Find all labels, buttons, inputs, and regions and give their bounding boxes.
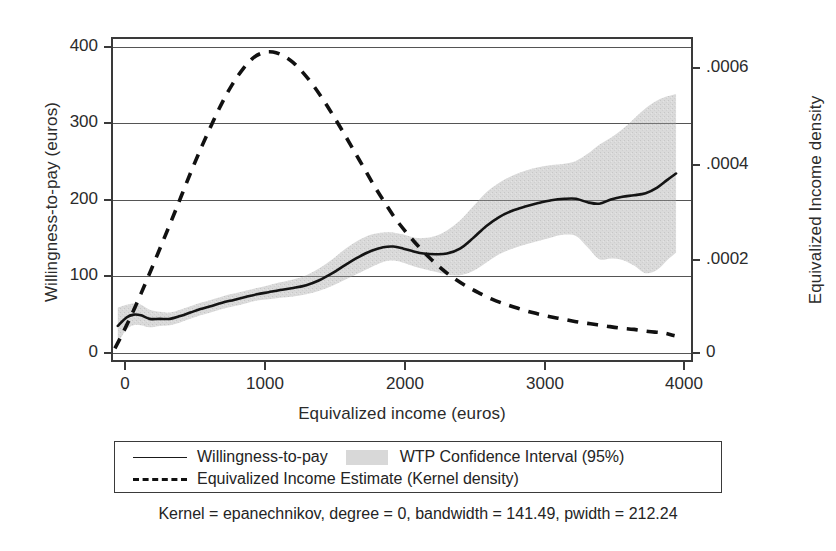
axis-ticks-right [692,68,700,353]
ytick-right-0: 0 [706,342,786,362]
chart-caption: Kernel = epanechnikov, degree = 0, bandw… [0,505,836,523]
xtick-0: 0 [85,374,165,394]
legend-solid-line-icon [133,457,187,458]
legend-label-ci: WTP Confidence Interval (95%) [400,448,625,466]
legend-label-wtp: Willingness-to-pay [197,448,328,466]
x-axis-title: Equivalized income (euros) [112,404,692,424]
ytick-right-0004: .0004 [706,154,786,174]
xtick-1000: 1000 [225,374,305,394]
axis-ticks-left [104,47,112,353]
legend-row-primary: Willingness-to-pay WTP Confidence Interv… [133,446,624,468]
chart-legend: Willingness-to-pay WTP Confidence Interv… [114,441,722,493]
legend-label-density: Equivalized Income Estimate (Kernel dens… [197,470,519,488]
y-axis-title-left: Willingness-to-pay (euros) [42,12,62,392]
ytick-right-0006: .0006 [706,57,786,77]
axis-ticks-bottom [125,361,684,370]
legend-row-secondary: Equivalized Income Estimate (Kernel dens… [133,468,519,490]
xtick-3000: 3000 [505,374,585,394]
ytick-right-0002: .0002 [706,249,786,269]
figure-container: 400 300 200 100 0 .0006 .0004 .0002 0 0 … [0,0,836,551]
xtick-2000: 2000 [365,374,445,394]
legend-band-swatch-icon [346,450,388,465]
y-axis-title-right: Equivalized Income density [806,35,826,365]
xtick-4000: 4000 [644,374,724,394]
legend-dashed-line-icon [133,478,187,481]
